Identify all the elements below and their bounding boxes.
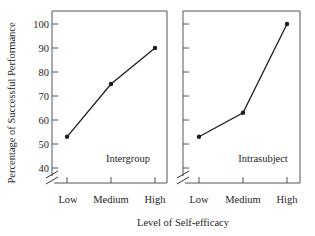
ytick-80: 80	[39, 67, 50, 78]
xtick-high: High	[145, 194, 167, 205]
xtick-medium: Medium	[225, 194, 261, 205]
x-ticks	[199, 177, 287, 183]
ytick-50: 50	[39, 139, 50, 150]
x-axis-label: Level of Self-efficacy	[137, 217, 230, 228]
ytick-60: 60	[39, 115, 50, 126]
x-tick-labels: Low Medium High	[189, 194, 298, 205]
point-low	[65, 135, 69, 139]
y-ticks	[183, 24, 189, 168]
xtick-medium: Medium	[93, 194, 129, 205]
ytick-100: 100	[33, 19, 49, 30]
xtick-high: High	[277, 194, 299, 205]
ytick-70: 70	[39, 91, 50, 102]
point-medium	[109, 82, 113, 86]
y-tick-labels: 100 90 80 70 60 50 40	[33, 19, 49, 174]
point-high	[285, 22, 289, 26]
data-line-intergroup	[67, 48, 155, 137]
chart: Percentage of Successful Performance 100…	[0, 0, 315, 236]
y-ticks	[52, 24, 58, 168]
x-tick-labels: Low Medium High	[58, 194, 166, 205]
ytick-40: 40	[39, 163, 50, 174]
point-low	[197, 135, 201, 139]
data-line-intrasubject	[199, 24, 287, 137]
xtick-low: Low	[58, 194, 78, 205]
xtick-low: Low	[189, 194, 209, 205]
panel-label-intergroup: Intergroup	[106, 153, 150, 164]
data-points-intergroup	[65, 46, 157, 139]
x-ticks	[67, 177, 155, 183]
point-medium	[241, 111, 245, 115]
panel-intergroup: 100 90 80 70 60 50 40 Low Medium High In…	[33, 11, 167, 205]
panel-label-intrasubject: Intrasubject	[238, 153, 288, 164]
point-high	[153, 46, 157, 50]
y-axis-label: Percentage of Successful Performance	[6, 22, 17, 184]
panel-intrasubject: Low Medium High Intrasubject	[177, 11, 300, 205]
ytick-90: 90	[39, 43, 50, 54]
data-points-intrasubject	[197, 22, 289, 139]
